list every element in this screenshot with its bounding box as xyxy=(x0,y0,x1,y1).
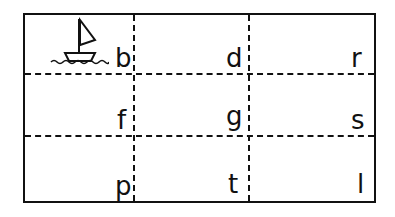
divider-horizontal-1 xyxy=(25,73,374,75)
cell-letter-d: d xyxy=(226,45,243,71)
cell-letter-s: s xyxy=(351,107,365,133)
cell-letter-b: b xyxy=(115,45,132,71)
cell-letter-r: r xyxy=(351,45,362,71)
sailboat-icon xyxy=(49,17,109,69)
divider-vertical-2 xyxy=(248,15,250,201)
divider-horizontal-2 xyxy=(25,135,374,137)
letter-grid: b d r f g s p t l xyxy=(23,13,376,203)
cell-letter-g: g xyxy=(226,103,243,129)
cell-letter-p: p xyxy=(115,173,132,199)
cell-letter-l: l xyxy=(357,171,364,197)
cell-letter-t: t xyxy=(228,171,238,197)
divider-vertical-1 xyxy=(133,15,135,201)
cell-letter-f: f xyxy=(117,107,126,133)
